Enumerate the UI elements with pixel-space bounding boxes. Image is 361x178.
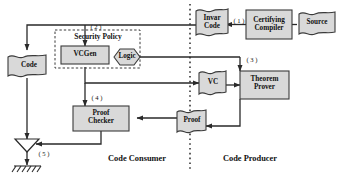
proof-checker-box[interactable] — [73, 106, 129, 131]
proof-document[interactable] — [177, 110, 206, 133]
edge-invar-to-code — [27, 25, 196, 50]
theorem-prover-box[interactable] — [240, 71, 289, 99]
edge-prover-to-proof — [206, 99, 240, 126]
vcgen-box[interactable] — [61, 46, 109, 64]
merge-triangle — [15, 139, 39, 152]
vc-document[interactable] — [199, 71, 226, 95]
edge-proofchecker-to-merge — [36, 131, 101, 144]
invar-code-document[interactable] — [196, 9, 228, 36]
code-document[interactable] — [8, 55, 46, 77]
diagram-canvas — [0, 0, 361, 178]
ground-symbol — [12, 166, 41, 172]
source-document[interactable] — [299, 12, 335, 35]
logic-hexagon[interactable] — [114, 49, 140, 65]
edge-vcgen-to-vc — [85, 67, 199, 83]
certifying-compiler-box[interactable] — [246, 10, 292, 39]
